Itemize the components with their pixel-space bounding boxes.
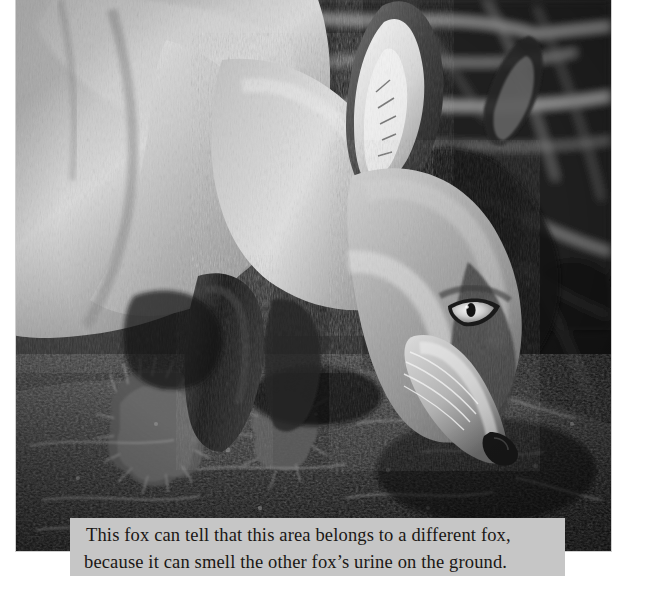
photo-caption: This fox can tell that this area belongs… (70, 518, 565, 576)
caption-line-1: This fox can tell that this area belongs… (86, 522, 549, 549)
page-canvas: This fox can tell that this area belongs… (0, 0, 646, 599)
caption-line-2: because it can smell the other fox’s uri… (84, 549, 549, 576)
photo-image (16, 0, 611, 551)
fox-sniffing-ground-photo (16, 0, 611, 551)
